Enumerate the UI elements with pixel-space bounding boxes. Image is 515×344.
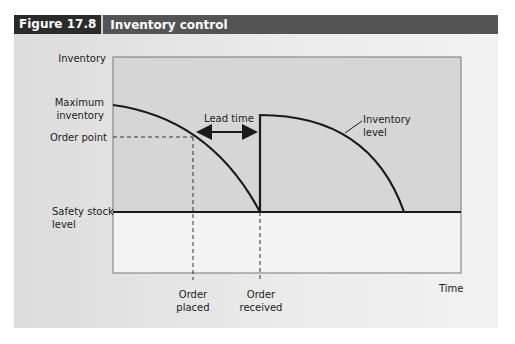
order-placed-line-1: Order [173,288,213,301]
order-point-label: Order point [30,131,107,144]
y-axis-label: Inventory [40,52,106,65]
lead-time-label: Lead time [204,112,254,125]
order-received-label: Order received [236,288,286,314]
x-axis-label: Time [439,282,463,295]
order-received-line-1: Order [236,288,286,301]
safety-stock-label: Safety stock level [52,205,114,231]
safety-stock-line-1: Safety stock [52,205,114,218]
order-placed-line-2: placed [173,301,213,314]
max-inventory-line-1: Maximum [40,96,104,109]
max-inventory-label: Maximum inventory [40,96,104,122]
inventory-level-line-2: level [363,126,411,139]
max-inventory-line-2: inventory [40,109,104,122]
inventory-level-label: Inventory level [363,113,411,139]
order-placed-label: Order placed [173,288,213,314]
safety-stock-line-2: level [52,218,114,231]
order-received-line-2: received [236,301,286,314]
inventory-level-line-1: Inventory [363,113,411,126]
plot-lower-area [113,212,461,273]
